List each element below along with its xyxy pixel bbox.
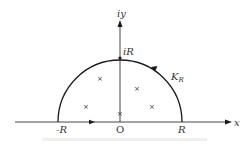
top-point-label: iR xyxy=(123,46,134,57)
left-point-label: -R xyxy=(56,124,67,135)
right-point-label: R xyxy=(177,124,186,135)
y-axis-label: iy xyxy=(117,8,126,19)
singularity-marker-icon: × xyxy=(83,103,89,111)
x-axis: x xyxy=(15,117,240,128)
singularity-marker-icon: × xyxy=(134,85,140,93)
x-axis-arrow-icon xyxy=(225,120,232,125)
x-axis-label: x xyxy=(234,117,240,128)
contour-label: KR xyxy=(170,71,184,84)
singularities: × × × × × xyxy=(83,75,155,118)
singularity-marker-icon: × xyxy=(149,103,155,111)
singularity-marker-icon: × xyxy=(97,75,103,83)
axis-direction-arrow-icon xyxy=(89,120,95,124)
caption-placeholder xyxy=(42,138,207,141)
contour-diagram: x iy iR -R R O KR × × × × × xyxy=(0,0,247,146)
y-axis: iy xyxy=(117,8,126,122)
top-point-dot xyxy=(118,56,121,59)
y-axis-arrow-icon xyxy=(118,20,123,27)
contour-label-sub: R xyxy=(177,76,184,84)
origin-label: O xyxy=(116,124,124,135)
singularity-marker-icon: × xyxy=(117,110,123,118)
